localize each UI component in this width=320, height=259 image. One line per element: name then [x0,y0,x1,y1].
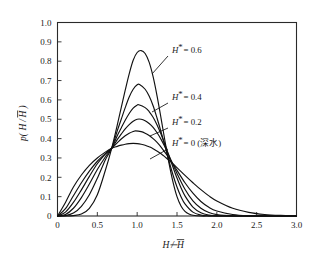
annotation-value-h00: = 0 (深水) [184,137,222,148]
x-tick-label: 1.5 [171,220,183,230]
x-tick-label: 2.5 [251,220,263,230]
annotation-star-h04: * [178,89,182,99]
x-tick-label: 0.5 [92,220,104,230]
y-axis-title: p( H / H ) [18,105,29,142]
y-tick-label: 0.9 [40,37,52,47]
y-axis-title-open: p( [18,132,29,142]
y-axis-title-close: ) [18,105,29,109]
annotation-star-h06: * [178,42,182,52]
y-tick-label: 0.8 [40,56,52,66]
y-tick-label: 0.6 [40,95,52,105]
y-axis-title-denominator: H [18,109,28,118]
y-tick-label: 0.4 [40,134,52,144]
y-tick-label: 0.3 [40,153,52,163]
annotation-star-h00: * [178,135,182,145]
x-tick-label: 2.0 [211,220,223,230]
y-tick-label: 0.1 [40,192,51,202]
distribution-chart: 00.10.20.30.40.50.60.70.80.91.0 00.51.01… [0,0,320,259]
y-tick-label: 0.5 [40,114,52,124]
x-axis-title-denominator: H [176,240,185,250]
y-tick-label: 0 [47,211,52,221]
annotation-star-h02: * [178,114,182,124]
y-tick-label: 0.7 [40,76,52,86]
x-tick-label: 1.0 [132,220,144,230]
y-tick-label: 0.2 [40,173,51,183]
x-axis-title: H / H [162,240,186,250]
y-axis-title-numerator: H [18,122,28,131]
x-axis-title-numerator: H [162,240,171,250]
x-tick-label: 0 [55,220,60,230]
figure-container: 00.10.20.30.40.50.60.70.80.91.0 00.51.01… [0,0,320,259]
annotation-value-h02: = 0.2 [184,117,202,127]
annotation-value-h06: = 0.6 [184,45,203,55]
x-tick-label: 3.0 [291,220,303,230]
annotation-value-h04: = 0.4 [184,92,203,102]
y-tick-label: 1.0 [40,18,52,28]
